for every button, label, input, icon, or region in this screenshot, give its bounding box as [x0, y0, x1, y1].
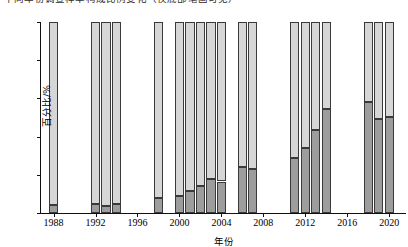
bar-2007: [248, 22, 257, 213]
bar-segment-upper: [290, 22, 299, 158]
bar-2003: [206, 22, 215, 213]
bar-segment-lower: [175, 196, 184, 213]
bar-segment-upper: [185, 22, 194, 191]
bar-segment-lower: [206, 179, 215, 213]
plot-area: 百分比/% 020406080100 198819921996200020042…: [40, 22, 406, 214]
bar-segment-lower: [91, 204, 100, 213]
bar-segment-upper: [374, 22, 383, 119]
bars-container: [41, 22, 406, 213]
x-tick-label: 1992: [86, 218, 106, 228]
bar-segment-lower: [101, 206, 110, 213]
x-tick-mark: [54, 213, 55, 217]
bar-1998: [154, 22, 163, 213]
x-tick-label: 1988: [44, 218, 64, 228]
bar-segment-lower: [217, 182, 226, 214]
x-tick-mark: [263, 213, 264, 217]
x-tick-mark: [221, 213, 222, 217]
bar-2013: [311, 22, 320, 213]
y-axis-label: 百分比/%: [39, 85, 53, 127]
x-tick-label: 2000: [169, 218, 189, 228]
bar-segment-upper: [91, 22, 100, 204]
bar-2000: [175, 22, 184, 213]
bar-segment-upper: [154, 22, 163, 198]
bar-segment-lower: [364, 102, 373, 213]
bar-2014: [322, 22, 331, 213]
y-tick-mark: [37, 22, 41, 23]
bar-segment-upper: [196, 22, 205, 186]
bar-segment-upper: [175, 22, 184, 196]
x-tick-label: 1996: [127, 218, 147, 228]
x-tick-label: 2012: [295, 218, 315, 228]
bar-segment-lower: [248, 169, 257, 213]
bar-segment-lower: [196, 186, 205, 213]
bar-segment-lower: [112, 204, 121, 213]
bar-2004: [217, 22, 226, 213]
bar-2020: [385, 22, 394, 213]
y-tick-mark: [37, 213, 41, 214]
x-tick-mark: [347, 213, 348, 217]
bar-2018: [364, 22, 373, 213]
bar-segment-lower: [238, 167, 247, 213]
x-tick-mark: [305, 213, 306, 217]
figure-caption-text: 不同年份调查样本构成比例变化（仅底部笔画可见）: [4, 0, 239, 5]
figure-root: 不同年份调查样本构成比例变化（仅底部笔画可见） 百分比/% 0204060801…: [0, 0, 408, 247]
bar-segment-lower: [301, 148, 310, 213]
bar-segment-lower: [49, 205, 58, 213]
y-tick-mark: [37, 175, 41, 176]
bar-segment-lower: [322, 109, 331, 213]
bar-segment-upper: [364, 22, 373, 102]
bar-segment-upper: [301, 22, 310, 148]
bar-segment-lower: [374, 119, 383, 213]
figure-caption-cropped: 不同年份调查样本构成比例变化（仅底部笔画可见）: [0, 0, 408, 9]
x-tick-label: 2016: [337, 218, 357, 228]
bar-segment-upper: [101, 22, 110, 206]
x-axis-label: 年份: [41, 234, 406, 247]
bar-segment-upper: [238, 22, 247, 167]
bar-2002: [196, 22, 205, 213]
bar-2011: [290, 22, 299, 213]
x-tick-mark: [179, 213, 180, 217]
bar-segment-lower: [290, 158, 299, 213]
y-tick-mark: [37, 60, 41, 61]
bar-segment-upper: [112, 22, 121, 204]
bar-segment-lower: [185, 191, 194, 213]
x-tick-mark: [137, 213, 138, 217]
bar-segment-upper: [206, 22, 215, 179]
bar-2001: [185, 22, 194, 213]
x-tick-mark: [96, 213, 97, 217]
x-tick-label: 2004: [211, 218, 231, 228]
x-tick-label: 2020: [379, 218, 399, 228]
bar-segment-upper: [311, 22, 320, 130]
bar-2012: [301, 22, 310, 213]
x-tick-mark: [389, 213, 390, 217]
bar-2006: [238, 22, 247, 213]
bar-segment-lower: [311, 130, 320, 213]
bar-2019: [374, 22, 383, 213]
bar-segment-lower: [154, 198, 163, 213]
bar-1993: [101, 22, 110, 213]
bar-segment-upper: [248, 22, 257, 169]
bar-1994: [112, 22, 121, 213]
y-tick-mark: [37, 137, 41, 138]
bar-segment-upper: [322, 22, 331, 109]
bar-segment-upper: [385, 22, 394, 117]
bar-1992: [91, 22, 100, 213]
x-tick-label: 2008: [253, 218, 273, 228]
y-tick-mark: [37, 98, 41, 99]
bar-segment-upper: [217, 22, 226, 181]
bar-segment-lower: [385, 117, 394, 213]
